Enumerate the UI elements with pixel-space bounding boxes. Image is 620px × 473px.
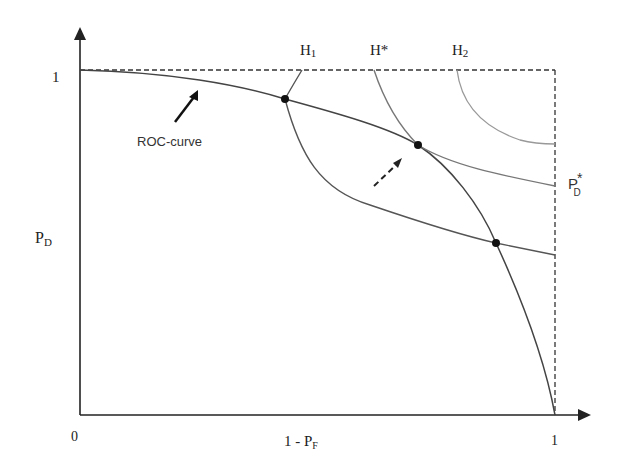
tangent-dot-hstar: [414, 141, 422, 149]
x-axis-label: 1 - PF: [284, 433, 318, 451]
pd-star-label: P*D: [568, 170, 583, 198]
h1-label: H1: [300, 42, 316, 59]
dashed-arrow-head-icon: [393, 158, 402, 168]
hstar-curve: [374, 70, 555, 186]
origin-label: 0: [71, 429, 78, 444]
dashed-arrow: [374, 165, 396, 186]
intersection-dot-h1-lower: [492, 239, 500, 247]
roc-label-arrow: [175, 97, 194, 122]
roc-curve-label: ROC-curve: [137, 134, 202, 149]
hstar-label: H*: [370, 42, 388, 58]
h1-curve: [285, 70, 555, 255]
x-axis-arrow-icon: [578, 409, 591, 421]
h2-label: H2: [452, 42, 468, 59]
h2-curve: [457, 70, 555, 144]
intersection-dot-h1-upper: [281, 95, 289, 103]
roc-curve: [80, 70, 555, 415]
roc-diagram: 1 0 1 PD 1 - PF ROC-curve H1 H* H2 P*D: [0, 0, 620, 473]
y-axis-label: PD: [35, 229, 52, 248]
y-one-label: 1: [52, 69, 60, 85]
y-axis-arrow-icon: [74, 27, 86, 40]
x-one-label: 1: [551, 433, 558, 448]
